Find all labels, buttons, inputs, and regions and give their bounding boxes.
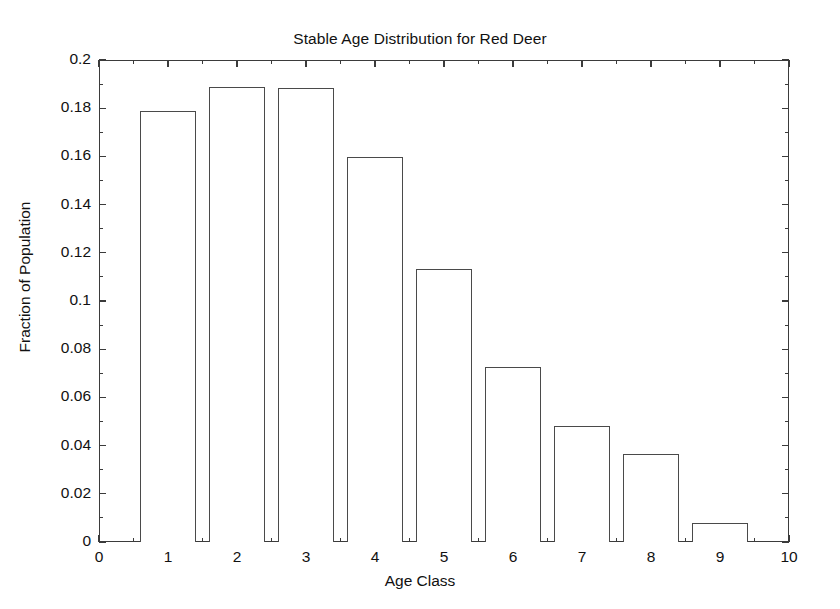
y-tick-labels: 00.020.040.060.080.10.120.140.160.180.2 xyxy=(0,0,91,609)
y-tick-right-0.04 xyxy=(782,445,789,446)
x-tick-top-0.5 xyxy=(133,60,134,64)
chart-title: Stable Age Distribution for Red Deer xyxy=(0,30,840,48)
y-tick-label-0.04: 0.04 xyxy=(3,436,91,454)
x-tick-top-3.5 xyxy=(340,60,341,64)
x-tick-top-8.5 xyxy=(685,60,686,64)
y-tick-label-0.18: 0.18 xyxy=(3,98,91,116)
y-tick-right-0.15 xyxy=(785,180,789,181)
y-tick-left-0.11 xyxy=(99,276,103,277)
y-tick-left-0.13 xyxy=(99,228,103,229)
y-tick-left-0.14 xyxy=(99,204,106,205)
x-tick-top-2.5 xyxy=(271,60,272,64)
axis-ticks-layer xyxy=(99,60,789,542)
x-tick-bottom-2.5 xyxy=(271,538,272,542)
y-tick-left-0.19 xyxy=(99,84,103,85)
figure-canvas: Stable Age Distribution for Red Deer 012… xyxy=(0,0,840,609)
x-tick-top-6 xyxy=(512,60,513,67)
y-tick-right-0.05 xyxy=(785,421,789,422)
y-tick-right-0.18 xyxy=(782,108,789,109)
x-tick-top-8 xyxy=(650,60,651,67)
x-tick-bottom-2 xyxy=(236,535,237,542)
x-tick-bottom-6 xyxy=(512,535,513,542)
y-tick-left-0.12 xyxy=(99,252,106,253)
x-tick-bottom-6.5 xyxy=(547,538,548,542)
x-tick-top-5.5 xyxy=(478,60,479,64)
x-tick-label-8: 8 xyxy=(631,548,671,566)
y-tick-left-0.05 xyxy=(99,421,103,422)
y-tick-left-0.16 xyxy=(99,156,106,157)
x-tick-label-9: 9 xyxy=(700,548,740,566)
y-axis-label: Fraction of Population xyxy=(16,177,34,377)
x-tick-top-9 xyxy=(719,60,720,67)
y-tick-right-0.20 xyxy=(782,59,789,60)
y-tick-label-0.16: 0.16 xyxy=(3,146,91,164)
x-tick-top-1 xyxy=(167,60,168,67)
x-tick-label-7: 7 xyxy=(562,548,602,566)
y-tick-right-0.08 xyxy=(782,349,789,350)
y-tick-left-0.00 xyxy=(99,541,106,542)
y-tick-label-0.02: 0.02 xyxy=(3,484,91,502)
x-axis-label: Age Class xyxy=(0,572,840,590)
y-tick-left-0.10 xyxy=(99,300,106,301)
x-tick-bottom-1 xyxy=(167,535,168,542)
x-tick-bottom-7.5 xyxy=(616,538,617,542)
x-tick-bottom-0.5 xyxy=(133,538,134,542)
x-tick-top-0 xyxy=(98,60,99,67)
y-tick-left-0.02 xyxy=(99,493,106,494)
x-tick-top-9.5 xyxy=(754,60,755,64)
y-tick-left-0.15 xyxy=(99,180,103,181)
y-tick-left-0.08 xyxy=(99,349,106,350)
x-tick-label-10: 10 xyxy=(769,548,809,566)
y-tick-left-0.01 xyxy=(99,517,103,518)
y-tick-right-0.13 xyxy=(785,228,789,229)
x-tick-bottom-4 xyxy=(374,535,375,542)
y-tick-right-0.12 xyxy=(782,252,789,253)
x-tick-top-2 xyxy=(236,60,237,67)
y-tick-right-0.03 xyxy=(785,469,789,470)
x-tick-bottom-4.5 xyxy=(409,538,410,542)
y-tick-left-0.09 xyxy=(99,325,103,326)
y-tick-right-0.02 xyxy=(782,493,789,494)
y-tick-right-0.09 xyxy=(785,325,789,326)
x-tick-bottom-1.5 xyxy=(202,538,203,542)
x-tick-top-5 xyxy=(443,60,444,67)
x-tick-bottom-5 xyxy=(443,535,444,542)
y-tick-left-0.06 xyxy=(99,397,106,398)
y-tick-right-0.07 xyxy=(785,373,789,374)
x-tick-bottom-9 xyxy=(719,535,720,542)
x-tick-label-2: 2 xyxy=(217,548,257,566)
x-tick-bottom-3 xyxy=(305,535,306,542)
x-tick-top-10 xyxy=(788,60,789,67)
x-tick-bottom-8 xyxy=(650,535,651,542)
y-tick-right-0.19 xyxy=(785,84,789,85)
y-tick-left-0.07 xyxy=(99,373,103,374)
y-tick-label-0: 0 xyxy=(3,532,91,550)
x-tick-label-1: 1 xyxy=(148,548,188,566)
x-tick-label-5: 5 xyxy=(424,548,464,566)
y-tick-left-0.17 xyxy=(99,132,103,133)
y-tick-left-0.20 xyxy=(99,59,106,60)
x-tick-bottom-7 xyxy=(581,535,582,542)
y-tick-right-0.01 xyxy=(785,517,789,518)
y-tick-left-0.03 xyxy=(99,469,103,470)
x-tick-label-4: 4 xyxy=(355,548,395,566)
x-tick-top-4 xyxy=(374,60,375,67)
x-tick-bottom-9.5 xyxy=(754,538,755,542)
x-tick-label-3: 3 xyxy=(286,548,326,566)
x-tick-bottom-5.5 xyxy=(478,538,479,542)
y-tick-right-0.00 xyxy=(782,541,789,542)
x-tick-top-7 xyxy=(581,60,582,67)
x-tick-top-7.5 xyxy=(616,60,617,64)
y-tick-label-0.2: 0.2 xyxy=(3,50,91,68)
x-tick-bottom-8.5 xyxy=(685,538,686,542)
x-tick-top-4.5 xyxy=(409,60,410,64)
x-tick-top-3 xyxy=(305,60,306,67)
y-tick-right-0.17 xyxy=(785,132,789,133)
y-tick-right-0.14 xyxy=(782,204,789,205)
x-tick-top-6.5 xyxy=(547,60,548,64)
x-tick-top-1.5 xyxy=(202,60,203,64)
y-tick-right-0.06 xyxy=(782,397,789,398)
x-tick-label-6: 6 xyxy=(493,548,533,566)
y-tick-right-0.11 xyxy=(785,276,789,277)
x-tick-bottom-3.5 xyxy=(340,538,341,542)
